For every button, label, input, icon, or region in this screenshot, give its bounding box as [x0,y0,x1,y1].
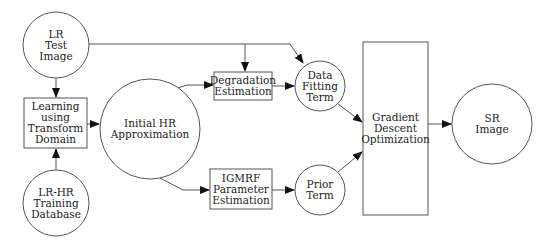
gradient-descent-label: Gradient Descent Optimization [363,42,428,215]
label-line: IGMRF [222,173,260,184]
learning-label: Learning using Transform Domain [24,98,87,148]
degradation-label: Degradation Estimation [214,72,272,100]
label-line: LR-HR [38,187,74,198]
label-line: Data [307,70,332,81]
lr-test-image-label: LR Test Image [23,12,89,78]
data-fitting-label: Data Fitting Term [295,61,345,111]
label-line: Image [39,51,72,62]
label-line: Term [306,92,333,103]
label-line: Optimization [361,134,430,145]
initial-hr-label: Initial HR Approximation [100,79,200,179]
label-line: Estimation [214,86,272,97]
label-line: Test [45,40,67,51]
label-line: Fitting [302,81,338,92]
edge-initial-to-igmrf [160,178,209,190]
label-line: Estimation [212,195,270,206]
label-line: Database [31,209,81,220]
sr-image-label: SR Image [452,84,532,164]
label-line: Term [306,190,333,201]
label-line: Training [33,198,78,209]
label-line: Image [475,124,508,135]
lr-hr-database-label: LR-HR Training Database [23,170,89,236]
label-line: Approximation [111,129,190,140]
label-line: Domain [35,134,76,145]
prior-label: Prior Term [295,165,345,215]
label-line: LR [49,29,64,40]
label-line: Parameter [213,184,269,195]
igmrf-label: IGMRF Parameter Estimation [210,169,272,209]
